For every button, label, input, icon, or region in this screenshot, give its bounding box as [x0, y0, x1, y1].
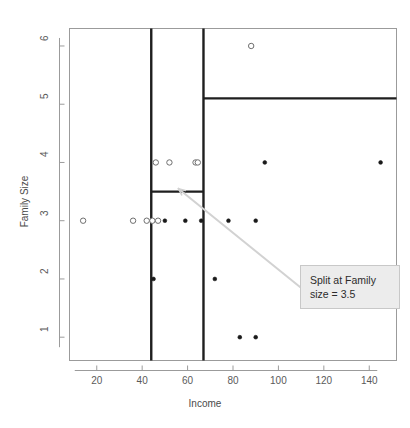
annotation-leader-line [179, 189, 301, 287]
data-point [213, 277, 217, 281]
x-tick-label: 40 [127, 375, 157, 386]
y-tick-label: 5 [38, 94, 49, 114]
axis-ticks [60, 38, 378, 371]
data-point [153, 160, 158, 165]
y-tick-label: 3 [38, 210, 49, 230]
split-lines-group [151, 29, 396, 361]
annotation-line-1: Split at Family [310, 273, 391, 287]
data-point [254, 335, 258, 339]
x-tick-label: 120 [309, 375, 339, 386]
y-tick-label: 6 [38, 35, 49, 55]
annotation-leader-path [179, 189, 301, 287]
data-point [238, 335, 242, 339]
data-point [183, 219, 187, 223]
data-point [163, 219, 167, 223]
data-point [227, 219, 231, 223]
x-tick-label: 80 [218, 375, 248, 386]
x-tick-label: 100 [263, 375, 293, 386]
data-point [195, 160, 200, 165]
x-axis-title: Income [0, 398, 410, 409]
y-tick-label: 4 [38, 152, 49, 172]
split-annotation-box: Split at Family size = 3.5 [300, 265, 400, 309]
x-tick-label: 140 [354, 375, 384, 386]
x-tick-label: 20 [82, 375, 112, 386]
data-point [263, 161, 267, 165]
data-point [130, 218, 135, 223]
data-point [152, 277, 156, 281]
data-point [80, 218, 85, 223]
data-point [167, 160, 172, 165]
y-tick-label: 2 [38, 268, 49, 288]
data-point [155, 218, 160, 223]
scatter-plot-figure: Income Family Size 20406080100120140 123… [0, 0, 410, 428]
plot-canvas [0, 0, 410, 428]
data-point [144, 218, 149, 223]
data-point [254, 219, 258, 223]
data-point [150, 218, 155, 223]
x-tick-label: 60 [173, 375, 203, 386]
plot-frame [70, 29, 397, 361]
data-point [379, 161, 383, 165]
y-tick-label: 1 [38, 327, 49, 347]
data-point [199, 219, 203, 223]
annotation-line-2: size = 3.5 [310, 287, 391, 301]
y-axis-title: Family Size [19, 152, 30, 252]
data-point [248, 43, 253, 48]
